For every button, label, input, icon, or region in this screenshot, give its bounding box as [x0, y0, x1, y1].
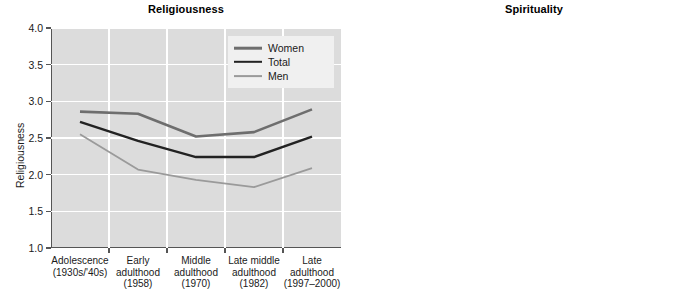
x-tick-mark — [166, 248, 167, 253]
y-tick-label: 3.5 — [28, 59, 43, 70]
y-axis-label-religiousness: Religiousness — [14, 123, 26, 188]
legend-religiousness: WomenTotalMen — [228, 36, 334, 88]
x-tick-label: Earlyadulthood(1958) — [116, 255, 160, 290]
chart-panel-spirituality: Spirituality Spiritual seeking 1.01.52.0… — [350, 0, 700, 298]
x-tick-mark — [282, 248, 283, 253]
legend-label-men: Men — [268, 70, 288, 82]
y-tick-label: 1.5 — [28, 206, 43, 217]
figure-root: Religiousness Religiousness 1.01.52.02.5… — [0, 0, 700, 298]
chart-title-religiousness: Religiousness — [0, 3, 350, 15]
x-tick-label: Lateadulthood(1997–2000) — [284, 255, 341, 290]
y-tick-label: 1.0 — [28, 243, 43, 254]
x-tick-mark — [108, 248, 109, 253]
y-tick-label: 2.0 — [28, 169, 43, 180]
chart-panel-religiousness: Religiousness Religiousness 1.01.52.02.5… — [0, 0, 350, 298]
legend-line-swatch-women — [234, 43, 262, 53]
legend-line-swatch-total — [234, 57, 262, 67]
y-tick-label: 2.5 — [28, 133, 43, 144]
chart-title-spirituality: Spirituality — [350, 3, 700, 15]
x-tick-label: Middleadulthood(1970) — [174, 255, 218, 290]
series-line-total — [80, 122, 312, 157]
x-tick-mark — [224, 248, 225, 253]
legend-item-total[interactable]: Total — [234, 55, 327, 69]
y-tick-label: 3.0 — [28, 96, 43, 107]
legend-item-women[interactable]: Women — [234, 41, 327, 55]
series-line-men — [80, 134, 312, 187]
legend-label-women: Women — [268, 42, 304, 54]
y-tick-label: 4.0 — [28, 23, 43, 34]
legend-label-total: Total — [268, 56, 290, 68]
x-tick-label: Late middleadulthood(1982) — [228, 255, 280, 290]
x-tick-label: Adolescence(1930s/'40s) — [51, 255, 108, 278]
legend-line-swatch-men — [234, 71, 262, 81]
legend-item-men[interactable]: Men — [234, 69, 327, 83]
